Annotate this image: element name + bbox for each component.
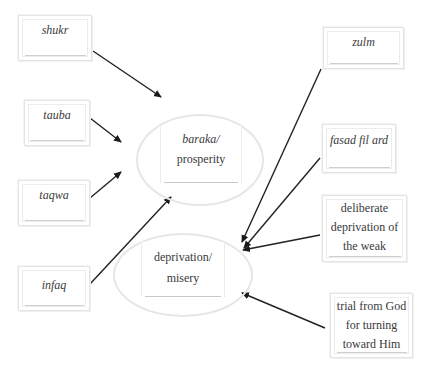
node-label: infaq (19, 275, 89, 295)
node-label: shukr (19, 20, 91, 40)
node-label: tauba (25, 105, 89, 125)
node-fasad: fasad fil ard (322, 124, 396, 173)
node-label: zulm (324, 32, 403, 52)
outcome-deprivation-line1: deprivation/ (142, 247, 224, 267)
arrow-taqwa-to-baraka (90, 172, 121, 198)
outcome-baraka-box: baraka/ prosperity (160, 126, 242, 183)
node-label: fasad fil ard (323, 130, 395, 150)
outcome-deprivation-line2: misery (142, 268, 224, 288)
node-label-line3: toward Him (331, 334, 412, 354)
arrow-trial-to-deprivation (242, 293, 325, 328)
outcome-baraka-line2: prosperity (161, 149, 241, 169)
node-label-line2: deprivation of (323, 217, 406, 237)
node-tauba: tauba (24, 100, 90, 146)
node-shukr: shukr (18, 15, 92, 61)
node-label-line1: deliberate (323, 198, 406, 218)
node-zulm: zulm (323, 27, 404, 69)
arrow-deliberate-to-deprivation (243, 235, 320, 250)
node-label-line1: trial from God (331, 296, 412, 316)
node-label: taqwa (19, 185, 89, 205)
node-deliberate: deliberate deprivation of the weak (322, 195, 407, 262)
node-label-line3: the weak (323, 236, 406, 256)
outcome-baraka-line1: baraka/ (161, 129, 241, 149)
node-trial: trial from God for turning toward Him (330, 293, 413, 358)
node-label-line2: for turning (331, 315, 412, 335)
arrow-shukr-to-baraka (93, 51, 161, 97)
arrow-tauba-to-baraka (90, 118, 121, 142)
node-taqwa: taqwa (18, 180, 90, 226)
node-infaq: infaq (18, 266, 90, 311)
outcome-deprivation-box: deprivation/ misery (141, 242, 225, 297)
